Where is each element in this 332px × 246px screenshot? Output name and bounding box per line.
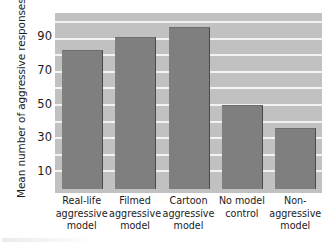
x-tick-label: Non-aggressivemodel [269,195,322,233]
x-tick-label-line: aggressive [108,208,161,221]
x-tick-label: Real-lifeaggressivemodel [55,195,108,233]
gridline [55,21,322,23]
x-tick-label-line: aggressive [55,208,108,221]
x-tick-label-line: model [55,220,108,233]
x-axis-tick-labels: Real-lifeaggressivemodelFilmedaggressive… [55,195,322,246]
x-tick-label-line: Cartoon [162,195,215,208]
x-tick-label-line: Filmed [108,195,161,208]
x-tick-label-line: control [215,208,268,221]
x-tick-label-line: Real-life [55,195,108,208]
bar [115,37,156,189]
scan-artifact [2,238,88,242]
x-tick-label-line: aggressive [162,208,215,221]
y-tick-label-50: 50 [28,99,52,110]
y-tick-label-70: 70 [28,65,52,76]
x-tick-label-line: aggressive [269,208,322,221]
x-tick-label: Cartoonaggressivemodel [162,195,215,233]
x-tick-label: Filmedaggressivemodel [108,195,161,233]
y-axis-tick-labels: 10 30 50 70 90 [26,0,52,246]
y-tick-label-30: 30 [28,132,52,143]
bar-chart-figure: Mean number of aggressive responses 10 3… [0,0,332,246]
bar [222,105,263,189]
x-tick-label-line: model [269,220,322,233]
x-tick-label: No modelcontrol [215,195,268,220]
x-tick-label-line: model [108,220,161,233]
y-tick-label-90: 90 [28,31,52,42]
bar [62,50,103,189]
x-tick-label-line: Non- [269,195,322,208]
plot-area [55,13,322,193]
y-tick-label-10: 10 [28,166,52,177]
bar [169,27,210,189]
x-tick-label-line: model [162,220,215,233]
x-tick-label-line: No model [215,195,268,208]
bar [275,128,316,189]
